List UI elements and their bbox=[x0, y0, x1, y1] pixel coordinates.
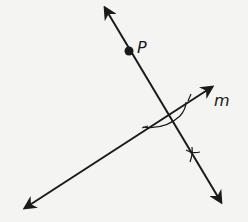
line-m bbox=[25, 87, 212, 208]
line-m-label: m bbox=[214, 93, 230, 109]
point-p-label: P bbox=[137, 40, 147, 56]
geometry-figure: P m bbox=[0, 0, 248, 222]
construction-diagram bbox=[0, 0, 248, 222]
point-p-dot bbox=[125, 47, 134, 56]
perpendicular-line bbox=[105, 8, 221, 202]
